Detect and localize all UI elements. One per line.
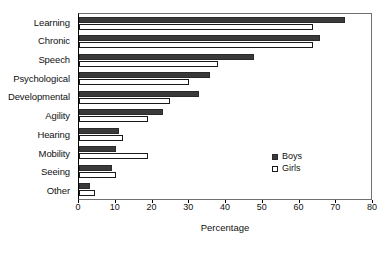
category-label: Seeing: [0, 163, 74, 182]
bar-girls: [79, 61, 218, 67]
bar-boys: [79, 72, 210, 78]
legend-swatch-girls: [272, 166, 278, 172]
bar-boys: [79, 183, 90, 189]
bar-group: [79, 88, 371, 107]
category-label: Learning: [0, 13, 74, 32]
x-axis-tick-label: 80: [367, 203, 377, 212]
category-label: Psychological: [0, 69, 74, 88]
bar-boys: [79, 109, 163, 115]
bar-group: [79, 33, 371, 52]
x-axis-title: Percentage: [78, 222, 372, 233]
x-axis-tick-label: 30: [183, 203, 193, 212]
bar-group: [79, 70, 371, 89]
bar-group: [79, 144, 371, 163]
bar-group: [79, 14, 371, 33]
bar-boys: [79, 165, 112, 171]
legend-label: Girls: [282, 164, 301, 173]
x-axis-tick-label: 60: [293, 203, 303, 212]
bar-girls: [79, 42, 313, 48]
bar-group: [79, 162, 371, 181]
bar-girls: [79, 98, 170, 104]
category-label: Developmental: [0, 88, 74, 107]
legend-item: Girls: [272, 164, 302, 173]
bar-girls: [79, 190, 95, 196]
chart-legend: BoysGirls: [272, 152, 302, 173]
bar-boys: [79, 146, 116, 152]
category-axis-labels: LearningChronicSpeechPsychologicalDevelo…: [0, 13, 74, 200]
x-axis-tick-label: 10: [110, 203, 120, 212]
bar-boys: [79, 17, 345, 23]
category-label: Chronic: [0, 32, 74, 51]
x-axis: 01020304050607080: [78, 200, 372, 216]
category-label: Mobility: [0, 144, 74, 163]
category-label: Hearing: [0, 125, 74, 144]
legend-item: Boys: [272, 152, 302, 161]
x-axis-tick-label: 40: [220, 203, 230, 212]
bar-rows: [79, 14, 371, 199]
x-axis-tick-label: 70: [330, 203, 340, 212]
bar-girls: [79, 135, 123, 141]
bar-girls: [79, 79, 189, 85]
bar-group: [79, 51, 371, 70]
bar-boys: [79, 128, 119, 134]
bar-boys: [79, 35, 320, 41]
legend-label: Boys: [282, 152, 302, 161]
category-label: Agility: [0, 107, 74, 126]
legend-swatch-boys: [272, 154, 278, 160]
bar-chart: LearningChronicSpeechPsychologicalDevelo…: [0, 0, 387, 254]
bar-girls: [79, 116, 148, 122]
bar-girls: [79, 24, 313, 30]
bar-group: [79, 107, 371, 126]
plot-area: [78, 13, 372, 200]
bar-girls: [79, 172, 116, 178]
category-label: Other: [0, 181, 74, 200]
bar-girls: [79, 153, 148, 159]
x-axis-tick-label: 50: [257, 203, 267, 212]
bar-group: [79, 125, 371, 144]
category-label: Speech: [0, 50, 74, 69]
x-axis-tick-label: 0: [75, 203, 80, 212]
bar-boys: [79, 91, 199, 97]
bar-group: [79, 181, 371, 200]
x-axis-tick-label: 20: [146, 203, 156, 212]
bar-boys: [79, 54, 254, 60]
